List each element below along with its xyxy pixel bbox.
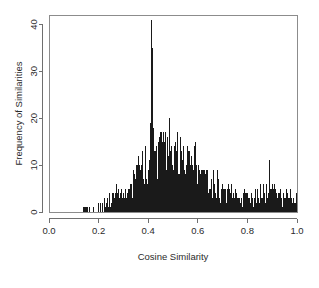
- y-tick-label: 20: [28, 113, 39, 124]
- histogram-figure: 0.00.20.40.60.81.0Cosine Similarity01020…: [0, 0, 319, 288]
- y-tick-label: 0: [28, 209, 39, 214]
- x-tick-label: 0.4: [142, 225, 155, 236]
- y-tick-label: 40: [28, 19, 39, 30]
- histogram-peak-bar: [151, 20, 152, 212]
- x-axis-title: Cosine Similarity: [138, 251, 209, 262]
- x-tick-label: 0.8: [241, 225, 254, 236]
- x-tick-label: 0.0: [42, 225, 55, 236]
- x-tick-label: 0.2: [92, 225, 105, 236]
- y-tick-label: 30: [28, 66, 39, 77]
- y-tick-label: 10: [28, 160, 39, 171]
- x-tick-label: 1.0: [290, 225, 303, 236]
- y-axis-title: Frequency of Similarities: [13, 61, 24, 165]
- x-tick-label: 0.6: [191, 225, 204, 236]
